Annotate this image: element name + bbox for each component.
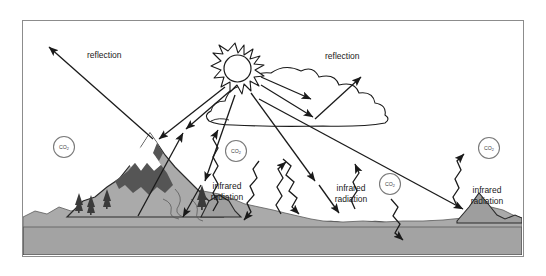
co2-molecule-1: CO2	[54, 137, 75, 158]
svg-text:infrared: infrared	[213, 181, 242, 191]
svg-text:radiation: radiation	[211, 192, 244, 202]
label-reflection-left: reflection	[87, 50, 122, 60]
svg-text:radiation: radiation	[471, 196, 504, 206]
greenhouse-effect-svg: CO2 CO2 CO2 CO2 reflection reflection in…	[23, 21, 522, 255]
svg-text:infrared: infrared	[473, 185, 502, 195]
label-infrared-radiation-3: infrared radiation	[471, 185, 504, 206]
diagram-frame: CO2 CO2 CO2 CO2 reflection reflection in…	[22, 20, 524, 257]
co2-molecule-4: CO2	[479, 138, 500, 159]
svg-text:infrared: infrared	[337, 183, 366, 193]
label-infrared-radiation-1: infrared radiation	[211, 181, 244, 202]
svg-text:radiation: radiation	[335, 194, 368, 204]
label-infrared-radiation-2: infrared radiation	[335, 183, 368, 204]
co2-molecule-3: CO2	[380, 174, 401, 195]
label-reflection-right: reflection	[325, 51, 360, 61]
co2-molecule-2: CO2	[226, 141, 247, 162]
diagram-canvas: CO2 CO2 CO2 CO2 reflection reflection in…	[0, 0, 546, 276]
